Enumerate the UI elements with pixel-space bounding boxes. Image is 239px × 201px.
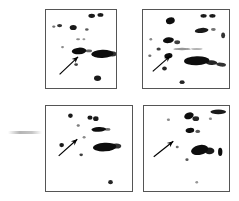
gel-panel-top-right[interactable]: [142, 9, 230, 89]
protein-spot: [85, 50, 92, 53]
protein-spot: [108, 180, 113, 184]
protein-spot: [52, 25, 55, 27]
protein-spot: [195, 130, 200, 133]
protein-spot: [205, 148, 215, 155]
protein-spot: [176, 146, 179, 149]
protein-spot: [88, 14, 95, 18]
protein-spot: [209, 117, 212, 120]
protein-spot: [211, 28, 216, 31]
protein-spot: [74, 63, 78, 66]
gel-panel-bottom-right[interactable]: [143, 105, 230, 192]
protein-spot: [76, 38, 80, 40]
protein-spot: [87, 116, 92, 120]
protein-spot: [191, 48, 203, 50]
gel-panel-bottom-left[interactable]: [45, 105, 133, 192]
protein-spot: [162, 67, 167, 71]
protein-spot: [98, 13, 104, 17]
protein-spot: [93, 116, 98, 121]
protein-spot: [221, 32, 225, 38]
protein-spot: [195, 181, 198, 183]
protein-spot: [70, 25, 77, 30]
protein-spot: [209, 14, 215, 18]
gel-panel-top-left[interactable]: [45, 9, 117, 89]
protein-spot: [77, 124, 80, 127]
protein-spot: [85, 28, 88, 31]
protein-spot: [173, 48, 191, 50]
gel-panel-top-right-canvas: [143, 10, 229, 88]
faint-smudge-mark: [8, 131, 42, 134]
protein-spot: [218, 148, 222, 156]
protein-spot: [68, 114, 73, 118]
protein-spot: [94, 76, 101, 81]
gel-panel-top-left-canvas: [46, 10, 116, 88]
protein-spot: [105, 128, 111, 131]
protein-spot: [174, 40, 180, 44]
protein-spot: [156, 47, 160, 50]
protein-spot: [167, 118, 170, 121]
protein-spot: [149, 38, 152, 40]
protein-spot: [59, 143, 64, 147]
gel-panel-bottom-left-canvas: [46, 106, 132, 191]
protein-spot: [180, 80, 185, 84]
protein-spot: [79, 153, 83, 156]
protein-spot: [111, 144, 121, 149]
protein-spot: [185, 158, 188, 161]
protein-spot: [83, 136, 86, 138]
gel-panel-bottom-right-canvas: [144, 106, 229, 191]
protein-spot: [192, 116, 199, 121]
gel-figure: [0, 0, 239, 201]
protein-spot: [57, 24, 62, 27]
protein-spot: [148, 55, 151, 58]
protein-spot: [200, 14, 206, 18]
protein-spot: [61, 46, 64, 48]
protein-spot: [210, 110, 226, 115]
protein-spot: [82, 38, 85, 40]
